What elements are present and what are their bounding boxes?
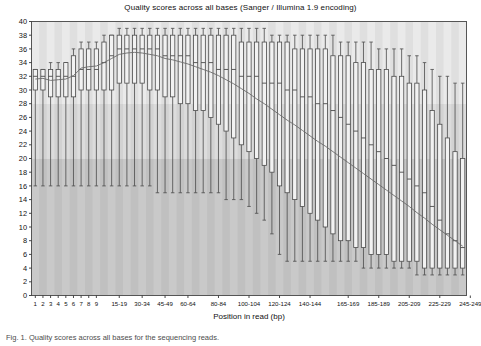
box-plot-item [377, 49, 381, 268]
box-plot-item [323, 35, 327, 261]
svg-text:1: 1 [34, 300, 38, 307]
svg-text:30: 30 [19, 86, 27, 95]
svg-text:6: 6 [72, 300, 76, 307]
svg-text:4: 4 [57, 300, 61, 307]
svg-text:38: 38 [19, 31, 27, 40]
svg-text:0: 0 [23, 291, 27, 300]
y-axis-ticks: 0246810121416182022242628303234363840 [19, 17, 32, 300]
svg-text:205-209: 205-209 [398, 300, 421, 307]
svg-text:2: 2 [23, 277, 27, 286]
svg-text:15-19: 15-19 [111, 300, 127, 307]
svg-text:26: 26 [19, 113, 27, 122]
box-plot-item [384, 49, 388, 268]
box-plot-item [407, 56, 411, 268]
svg-text:40: 40 [19, 17, 27, 26]
svg-text:120-124: 120-124 [268, 300, 291, 307]
svg-text:8: 8 [23, 236, 27, 245]
svg-text:10: 10 [19, 223, 27, 232]
svg-text:24: 24 [19, 127, 27, 136]
box-plot-item [422, 63, 426, 275]
figure-caption: Fig. 1. Quality scores across all bases … [6, 333, 476, 343]
plot-canvas: 0246810121416182022242628303234363840 12… [0, 0, 481, 346]
svg-text:22: 22 [19, 140, 27, 149]
x-axis-ticks: 12345678915-1930-3445-4960-6480-84100-10… [34, 296, 481, 307]
svg-text:7: 7 [79, 300, 83, 307]
svg-text:8: 8 [87, 300, 91, 307]
box-plot-item [369, 42, 373, 268]
svg-text:225-229: 225-229 [429, 300, 452, 307]
svg-text:165-169: 165-169 [337, 300, 360, 307]
svg-text:14: 14 [19, 195, 27, 204]
svg-text:6: 6 [23, 250, 27, 259]
box-plot-item [399, 49, 403, 268]
svg-text:32: 32 [19, 72, 27, 81]
svg-text:185-189: 185-189 [368, 300, 391, 307]
svg-text:5: 5 [64, 300, 68, 307]
box-plot-item [338, 42, 342, 261]
svg-text:3: 3 [49, 300, 53, 307]
svg-text:140-144: 140-144 [299, 300, 322, 307]
svg-text:30-34: 30-34 [134, 300, 150, 307]
svg-text:20: 20 [19, 154, 27, 163]
svg-text:36: 36 [19, 45, 27, 54]
svg-text:100-104: 100-104 [238, 300, 261, 307]
svg-text:45-49: 45-49 [157, 300, 173, 307]
svg-text:34: 34 [19, 58, 27, 67]
svg-text:28: 28 [19, 99, 27, 108]
svg-text:Position in read (bp): Position in read (bp) [213, 312, 285, 321]
svg-text:60-64: 60-64 [180, 300, 196, 307]
svg-text:12: 12 [19, 209, 27, 218]
box-plot-item [346, 42, 350, 261]
svg-text:16: 16 [19, 182, 27, 191]
box-plot-item [354, 42, 358, 261]
svg-text:2: 2 [41, 300, 45, 307]
svg-text:18: 18 [19, 168, 27, 177]
svg-text:9: 9 [95, 300, 99, 307]
box-plot-item [392, 49, 396, 268]
svg-text:245-249: 245-249 [459, 300, 481, 307]
box-plot-item [331, 35, 335, 261]
x-axis-title: Position in read (bp) [213, 312, 285, 321]
quality-score-chart: Quality scores across all bases (Sanger … [0, 0, 481, 346]
box-plot-item [361, 42, 365, 268]
box-plot-item [415, 56, 419, 275]
svg-text:4: 4 [23, 264, 27, 273]
svg-text:80-84: 80-84 [211, 300, 227, 307]
